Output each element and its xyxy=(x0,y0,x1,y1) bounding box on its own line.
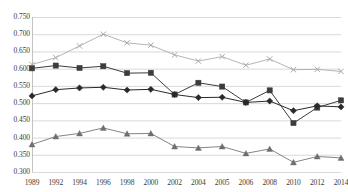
x-tick-label: 2004 xyxy=(191,179,206,187)
data-point-square xyxy=(338,98,343,103)
data-point-x xyxy=(172,52,177,57)
data-point-diamond xyxy=(100,84,106,90)
data-point-diamond xyxy=(195,95,201,101)
data-point-triangle xyxy=(100,125,106,131)
x-tick-label: 2014 xyxy=(334,179,348,187)
x-tick-label: 2005 xyxy=(215,179,230,187)
series-line xyxy=(32,87,341,110)
data-point-x xyxy=(101,32,106,37)
data-point-diamond xyxy=(124,87,130,93)
x-tick-label: 1992 xyxy=(48,179,63,187)
data-point-diamond xyxy=(53,87,59,93)
data-point-square xyxy=(77,65,82,70)
data-point-diamond xyxy=(219,94,225,100)
data-point-x xyxy=(77,43,82,48)
data-point-x xyxy=(243,63,248,68)
data-point-diamond xyxy=(148,86,154,92)
data-point-diamond xyxy=(267,98,273,104)
series-line xyxy=(32,66,341,124)
data-point-square xyxy=(101,64,106,69)
x-tick-label: 2006 xyxy=(239,179,254,187)
data-point-diamond xyxy=(76,85,82,91)
x-tick-label: 2000 xyxy=(144,179,159,187)
x-tick-label: 2008 xyxy=(262,179,277,187)
data-point-square xyxy=(291,120,296,125)
data-series-layer xyxy=(29,32,344,165)
x-tick-label: 1996 xyxy=(96,179,111,187)
data-point-diamond xyxy=(338,104,344,110)
series-square-marker xyxy=(29,63,343,126)
data-point-x xyxy=(267,56,272,61)
data-point-triangle xyxy=(267,146,273,152)
data-point-diamond xyxy=(29,93,35,99)
data-point-square xyxy=(267,88,272,93)
x-axis-tick-labels: 1989199219941996199820002002200420052006… xyxy=(0,179,345,192)
series-triangle-marker xyxy=(29,125,344,165)
x-tick-label: 2002 xyxy=(167,179,182,187)
x-tick-label: 2012 xyxy=(310,179,325,187)
data-point-square xyxy=(53,63,58,68)
data-point-diamond xyxy=(290,108,296,114)
data-point-triangle xyxy=(29,141,35,147)
x-tick-label: 1994 xyxy=(72,179,87,187)
data-point-square xyxy=(220,84,225,89)
x-tick-label: 2010 xyxy=(286,179,301,187)
gridlines xyxy=(32,18,341,173)
data-point-x xyxy=(53,55,58,60)
x-tick-label: 1998 xyxy=(120,179,135,187)
data-point-square xyxy=(148,70,153,75)
data-point-square xyxy=(29,66,34,71)
data-point-square xyxy=(196,80,201,85)
data-point-square xyxy=(124,71,129,76)
x-tick-label: 1989 xyxy=(25,179,40,187)
